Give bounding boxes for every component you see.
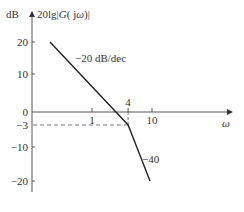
slope-label-second: −40 <box>142 153 160 165</box>
y-axis-label: 20lg|G( jω)| <box>37 8 90 21</box>
y-tick-label: 20 <box>17 36 29 48</box>
bode-plot: dB 20lg|G( jω)| ω 20100−3−10−20 1410 −20… <box>0 0 244 212</box>
y-tick-label: −3 <box>16 119 28 131</box>
slope-label-first: −20 dB/dec <box>75 52 126 64</box>
x-tick-label: 4 <box>125 96 131 108</box>
x-tick-label: 10 <box>147 114 159 126</box>
y-unit-label: dB <box>6 8 19 20</box>
y-tick-label: −10 <box>11 141 29 153</box>
x-tick-label: 1 <box>89 114 95 126</box>
x-axis-label: ω <box>222 117 230 129</box>
y-tick-label: 0 <box>23 106 29 118</box>
y-tick-label: 10 <box>17 68 29 80</box>
y-tick-label: −20 <box>11 175 29 187</box>
